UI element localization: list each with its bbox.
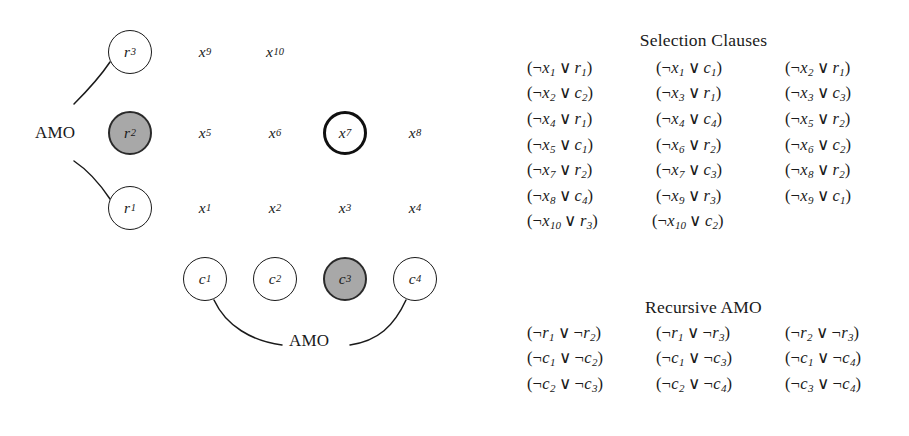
variable-x5: x5 bbox=[183, 111, 227, 155]
disjunction-icon: ∨ bbox=[817, 83, 829, 102]
clause-literal-left-sub: 3 bbox=[808, 91, 814, 103]
clause-literal-left-sub: 3 bbox=[679, 91, 685, 103]
clause-literal-left-negation-icon: ¬ bbox=[791, 109, 800, 128]
disjunction-icon: ∨ bbox=[817, 58, 829, 77]
clause-literal-left-negation-icon: ¬ bbox=[662, 135, 671, 154]
paren-open: ( bbox=[527, 135, 533, 154]
clause-item: (¬x2∨r1) bbox=[785, 60, 909, 78]
disjunction-icon: ∨ bbox=[816, 323, 828, 342]
variable-x4: x4 bbox=[393, 186, 437, 230]
clause-literal-right-base: c bbox=[832, 186, 839, 205]
clause-literal-right-base: c bbox=[842, 374, 849, 393]
clause-literal-left-base: x bbox=[800, 160, 807, 179]
clause-item: (¬c1∨¬c2) bbox=[527, 350, 656, 368]
clause-item: (¬x8∨c4) bbox=[527, 188, 656, 206]
variable-x8-sub: 8 bbox=[416, 128, 421, 139]
variable-x7-sub: 7 bbox=[346, 128, 351, 139]
clause-literal-left-sub: 10 bbox=[550, 219, 561, 231]
clause-literal-left-sub: 1 bbox=[679, 66, 685, 78]
clause-literal-left-base: c bbox=[800, 374, 807, 393]
clause-literal-left-base: x bbox=[800, 109, 807, 128]
recursive-amo-list: (¬r1∨¬r2)(¬r1∨¬r3)(¬r2∨¬r3)(¬c1∨¬c2)(¬c1… bbox=[527, 321, 909, 398]
variable-x7-highlighted[interactable]: x7 bbox=[323, 111, 367, 155]
node-r2[interactable]: r2 bbox=[108, 111, 152, 155]
paren-open: ( bbox=[656, 348, 662, 367]
disjunction-icon: ∨ bbox=[688, 109, 700, 128]
clause-literal-left-base: x bbox=[800, 135, 807, 154]
paren-open: ( bbox=[527, 323, 533, 342]
paren-close: ) bbox=[846, 135, 852, 154]
clause-literal-left-sub: 4 bbox=[550, 117, 556, 129]
clause-literal-right-base: r bbox=[583, 323, 589, 342]
clause-literal-left-sub: 1 bbox=[550, 356, 556, 368]
clause-row: (¬x5∨c1)(¬x6∨r2)(¬x6∨c2) bbox=[527, 133, 909, 159]
clause-literal-left-base: x bbox=[542, 135, 549, 154]
clause-literal-right-base: c bbox=[703, 160, 710, 179]
clause-literal-left-negation-icon: ¬ bbox=[662, 348, 671, 367]
clause-literal-left-negation-icon: ¬ bbox=[791, 186, 800, 205]
clause-panel: Selection Clauses (¬x1∨r1)(¬x1∨c1)(¬x2∨r… bbox=[470, 0, 909, 436]
clause-literal-left-base: x bbox=[671, 83, 678, 102]
paren-close: ) bbox=[725, 323, 731, 342]
node-r1[interactable]: r1 bbox=[108, 186, 152, 230]
paren-close: ) bbox=[596, 323, 602, 342]
paren-close: ) bbox=[717, 109, 723, 128]
paren-open: ( bbox=[785, 109, 791, 128]
edge-r3-to-amo bbox=[74, 62, 110, 104]
node-c1[interactable]: c1 bbox=[183, 257, 227, 301]
clause-literal-left-negation-icon: ¬ bbox=[791, 135, 800, 154]
node-c4-sub: 4 bbox=[416, 274, 421, 285]
disjunction-icon: ∨ bbox=[688, 135, 700, 154]
clause-literal-left-negation-icon: ¬ bbox=[533, 135, 542, 154]
paren-close: ) bbox=[717, 160, 723, 179]
paren-close: ) bbox=[726, 348, 732, 367]
clause-row: (¬r1∨¬r2)(¬r1∨¬r3)(¬r2∨¬r3) bbox=[527, 321, 909, 347]
node-c3[interactable]: c3 bbox=[323, 257, 367, 301]
clause-item: (¬x8∨r2) bbox=[785, 162, 909, 180]
clause-literal-left-base: c bbox=[800, 348, 807, 367]
node-c2[interactable]: c2 bbox=[253, 257, 297, 301]
amo-grid-diagram: AMO AMO r3 r2 r1 c1 c2 c3 c4 x9 x10 bbox=[0, 0, 470, 436]
clause-literal-left-base: c bbox=[671, 374, 678, 393]
clause-literal-left-negation-icon: ¬ bbox=[533, 348, 542, 367]
paren-close: ) bbox=[587, 160, 593, 179]
clause-literal-right-base: r bbox=[712, 323, 718, 342]
clause-literal-left-sub: 7 bbox=[679, 168, 685, 180]
variable-x10-base: x bbox=[266, 44, 273, 60]
paren-open: ( bbox=[785, 186, 791, 205]
variable-x5-base: x bbox=[199, 125, 206, 141]
clause-literal-left-negation-icon: ¬ bbox=[533, 83, 542, 102]
clause-literal-left-sub: 2 bbox=[550, 91, 556, 103]
selection-clauses-title: Selection Clauses bbox=[484, 30, 909, 51]
clause-literal-left-sub: 1 bbox=[679, 356, 685, 368]
clause-row: (¬c2∨¬c3)(¬c2∨¬c4)(¬c3∨¬c4) bbox=[527, 372, 909, 398]
paren-close: ) bbox=[845, 160, 851, 179]
clause-literal-left-sub: 2 bbox=[808, 66, 814, 78]
paren-close: ) bbox=[597, 374, 603, 393]
disjunction-icon: ∨ bbox=[688, 58, 700, 77]
clause-row: (¬x8∨c4)(¬x9∨r3)(¬x9∨c1) bbox=[527, 184, 909, 210]
paren-open: ( bbox=[656, 83, 662, 102]
variable-x1: x1 bbox=[183, 186, 227, 230]
clause-literal-right-negation-icon: ¬ bbox=[832, 323, 841, 342]
node-r3-sub: 3 bbox=[131, 47, 136, 58]
edge-r1-to-amo bbox=[74, 161, 110, 199]
clause-literal-right-base: c bbox=[842, 348, 849, 367]
node-c4[interactable]: c4 bbox=[393, 257, 437, 301]
clause-literal-left-base: x bbox=[542, 186, 549, 205]
clause-literal-left-base: c bbox=[671, 348, 678, 367]
clause-literal-left-negation-icon: ¬ bbox=[662, 160, 671, 179]
clause-row: (¬x4∨r1)(¬x4∨c4)(¬x5∨r2) bbox=[527, 107, 909, 133]
paren-open: ( bbox=[656, 160, 662, 179]
node-r3[interactable]: r3 bbox=[108, 30, 152, 74]
clause-item: (¬x9∨r3) bbox=[656, 188, 785, 206]
variable-x8-base: x bbox=[409, 125, 416, 141]
clause-literal-left-negation-icon: ¬ bbox=[791, 323, 800, 342]
paren-close: ) bbox=[846, 83, 852, 102]
clause-item: (¬c3∨¬c4) bbox=[785, 376, 909, 394]
clause-literal-left-base: r bbox=[542, 323, 548, 342]
clause-literal-left-sub: 9 bbox=[808, 194, 814, 206]
clause-literal-left-negation-icon: ¬ bbox=[662, 109, 671, 128]
node-c4-base: c bbox=[409, 271, 416, 287]
paren-open: ( bbox=[656, 374, 662, 393]
